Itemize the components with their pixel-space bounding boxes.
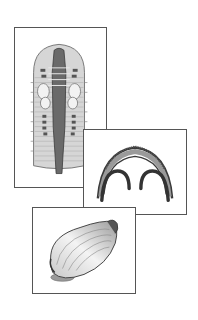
panel-clam: bivalve-shell-illustration [32, 207, 136, 294]
cross-section-illustration [84, 130, 186, 214]
panel-cross-section: arched-cross-section-illustration [83, 129, 187, 215]
clam-illustration [33, 208, 135, 293]
